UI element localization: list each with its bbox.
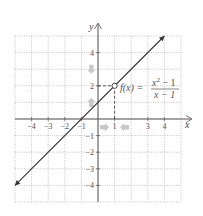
graph-figure: −4−3−2−113442−1−2−3−4 x y f(x) = x2 − 1 … — [0, 0, 203, 216]
open-circle-hole — [112, 83, 117, 88]
y-axis-label: y — [88, 21, 94, 32]
x-tick-label: −3 — [44, 122, 53, 131]
x-tick-label: 1 — [113, 122, 117, 131]
arrow-left-icon — [120, 123, 129, 131]
y-tick-label: −4 — [85, 181, 94, 190]
x-tick-label: 4 — [162, 122, 166, 131]
hole-annotation — [98, 83, 117, 119]
y-tick-label: −1 — [85, 132, 94, 141]
limit-hint-arrows — [87, 65, 129, 132]
x-tick-label: 3 — [146, 122, 150, 131]
svg-text:f(x) =: f(x) = — [120, 82, 143, 94]
y-tick-label: −2 — [85, 148, 94, 157]
arrow-down-icon — [87, 65, 95, 74]
arrow-right-icon — [100, 123, 109, 131]
y-tick-label: 2 — [90, 82, 94, 91]
x-axis-label: x — [184, 119, 190, 130]
y-tick-label: −3 — [85, 165, 94, 174]
x-tick-label: −1 — [77, 122, 86, 131]
function-numerator: x2 − 1 — [151, 76, 176, 88]
function-line-segment — [15, 36, 164, 185]
function-label: f(x) = x2 − 1 x − 1 — [120, 76, 179, 100]
x-tick-label: −2 — [61, 122, 70, 131]
y-tick-label: 4 — [90, 49, 94, 58]
x-tick-label: −4 — [27, 122, 36, 131]
function-line — [15, 36, 164, 185]
function-denominator: x − 1 — [153, 89, 175, 100]
axes — [15, 23, 192, 202]
function-lhs: f(x) = — [120, 82, 143, 94]
